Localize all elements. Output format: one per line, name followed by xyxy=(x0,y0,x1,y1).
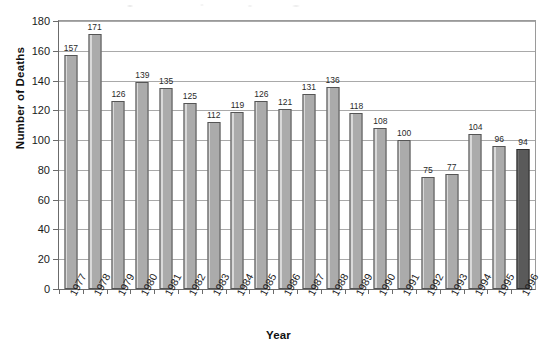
bar-group: 121 xyxy=(273,21,297,289)
y-axis-tick-label: 140 xyxy=(32,75,50,87)
bar[interactable] xyxy=(517,149,530,289)
bar-value-label: 118 xyxy=(350,101,364,111)
bar-group: 104 xyxy=(464,21,488,289)
bar-group: 157 xyxy=(59,21,83,289)
bar-group: 108 xyxy=(368,21,392,289)
y-axis-tick-label: 20 xyxy=(38,253,50,265)
bar-value-label: 157 xyxy=(64,43,78,53)
bar-group: 77 xyxy=(440,21,464,289)
bar-group: 171 xyxy=(83,21,107,289)
x-axis-tick-labels: 1977197819791980198119821983198419851986… xyxy=(58,292,536,330)
bar-value-label: 136 xyxy=(326,75,340,85)
bar-group: 136 xyxy=(321,21,345,289)
bar-group: 125 xyxy=(178,21,202,289)
bar[interactable] xyxy=(302,94,315,289)
bar[interactable] xyxy=(445,174,458,289)
bar[interactable] xyxy=(112,101,125,289)
bar-value-label: 171 xyxy=(88,22,102,32)
bar[interactable] xyxy=(88,34,101,289)
bar-value-label: 77 xyxy=(447,162,456,172)
bar-value-label: 104 xyxy=(468,122,482,132)
bar-value-label: 112 xyxy=(207,110,221,120)
bar-value-label: 100 xyxy=(397,128,411,138)
y-axis-title: Number of Deaths xyxy=(14,23,26,173)
bar-value-label: 121 xyxy=(278,97,292,107)
bar[interactable] xyxy=(469,134,482,289)
bar[interactable] xyxy=(160,88,173,289)
y-axis-tick-label: 80 xyxy=(38,164,50,176)
bar-value-label: 75 xyxy=(423,165,432,175)
y-axis-tick-label: 160 xyxy=(32,45,50,57)
bar[interactable] xyxy=(279,109,292,289)
plot-area: 020406080100120140160180 157171126139135… xyxy=(58,20,536,290)
bar-group: 94 xyxy=(511,21,535,289)
bar[interactable] xyxy=(326,87,339,289)
bar-value-label: 119 xyxy=(231,100,245,110)
y-axis-tick-label: 100 xyxy=(32,134,50,146)
bar-group: 100 xyxy=(392,21,416,289)
bar[interactable] xyxy=(255,101,268,289)
bar-value-label: 139 xyxy=(135,70,149,80)
bar-value-label: 131 xyxy=(302,82,316,92)
y-axis-tick-label: 40 xyxy=(38,223,50,235)
bar[interactable] xyxy=(421,177,434,289)
bar[interactable] xyxy=(231,112,244,289)
bar-group: 119 xyxy=(226,21,250,289)
bar-value-label: 126 xyxy=(254,89,268,99)
bar-group: 112 xyxy=(202,21,226,289)
bar-group: 126 xyxy=(107,21,131,289)
bar-group: 75 xyxy=(416,21,440,289)
bar-value-label: 125 xyxy=(183,91,197,101)
bar-group: 118 xyxy=(345,21,369,289)
bar[interactable] xyxy=(350,113,363,289)
bar-value-label: 108 xyxy=(373,116,387,126)
bar-group: 126 xyxy=(249,21,273,289)
bar-group: 96 xyxy=(487,21,511,289)
bar[interactable] xyxy=(136,82,149,289)
x-axis-title: Year xyxy=(0,329,557,341)
y-axis-tick-label: 60 xyxy=(38,194,50,206)
bar-value-label: 94 xyxy=(518,137,527,147)
y-axis-tick-label: 120 xyxy=(32,104,50,116)
bar-group: 139 xyxy=(130,21,154,289)
bar-value-label: 135 xyxy=(159,76,173,86)
bar-value-label: 96 xyxy=(495,134,504,144)
bar[interactable] xyxy=(183,103,196,289)
bar[interactable] xyxy=(374,128,387,289)
bar-value-label: 126 xyxy=(111,89,125,99)
bar-group: 131 xyxy=(297,21,321,289)
bar-chart-figure: Number of Deaths 02040608010012014016018… xyxy=(0,0,557,352)
bars-layer: 1571711261391351251121191261211311361181… xyxy=(59,21,535,289)
bar[interactable] xyxy=(493,146,506,289)
bar[interactable] xyxy=(398,140,411,289)
scan-artifact xyxy=(110,2,440,11)
y-axis-tick-label: 0 xyxy=(44,283,50,295)
y-axis-tick-label: 180 xyxy=(32,15,50,27)
bar[interactable] xyxy=(207,122,220,289)
bar[interactable] xyxy=(64,55,77,289)
bar-group: 135 xyxy=(154,21,178,289)
